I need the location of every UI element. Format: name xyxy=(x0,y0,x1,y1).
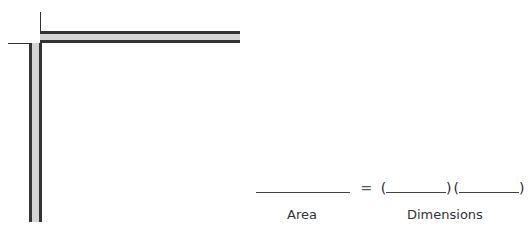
equals-sign: = xyxy=(360,180,372,196)
horizontal-bar xyxy=(40,31,240,43)
close-paren-1: ) xyxy=(446,180,451,196)
open-paren-2: ( xyxy=(454,180,459,196)
dimensions-label: Dimensions xyxy=(407,207,483,222)
open-paren-1: ( xyxy=(381,180,386,196)
dimension-blank-2[interactable] xyxy=(459,191,519,193)
area-blank[interactable] xyxy=(256,191,350,193)
dimension-blank-1[interactable] xyxy=(386,191,446,193)
vertical-bar xyxy=(29,43,42,222)
area-equation: = ()() xyxy=(256,180,525,196)
close-paren-2: ) xyxy=(519,180,524,196)
area-label: Area xyxy=(287,207,317,222)
